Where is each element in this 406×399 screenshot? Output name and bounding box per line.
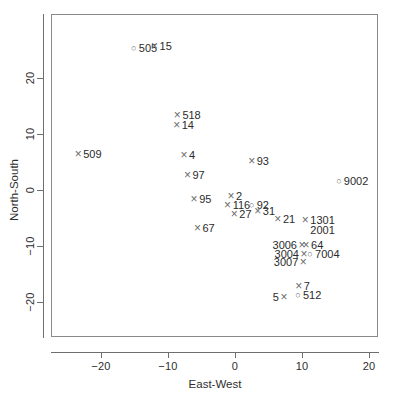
point-label-509: 509 [83, 149, 101, 160]
y-tick-label-10: 10 [24, 127, 36, 140]
point-label-31: 31 [263, 206, 275, 217]
x-tick-label-0: 0 [232, 360, 238, 372]
point-label-7004: 7004 [315, 249, 339, 260]
point-label-97: 97 [192, 170, 204, 181]
x-tick--20 [101, 352, 102, 358]
point-label-14: 14 [182, 119, 194, 130]
x-tick-label-10: 10 [296, 360, 309, 372]
y-tick-label-0: 0 [24, 187, 36, 193]
plot-frame [51, 14, 378, 337]
y-tick-20 [37, 78, 43, 79]
point-label-4: 4 [189, 150, 195, 161]
y-tick-0 [37, 190, 43, 191]
x-tick--10 [168, 352, 169, 358]
point-label-2001: 2001 [310, 225, 334, 236]
point-label-93: 93 [257, 155, 269, 166]
point-label-3007: 3007 [274, 256, 298, 267]
y-tick-label--20: −20 [24, 293, 36, 312]
point-label-27: 27 [239, 208, 251, 219]
point-label-95: 95 [199, 193, 211, 204]
y-tick--10 [37, 246, 43, 247]
point-label-67: 67 [202, 223, 214, 234]
point-label-512: 512 [303, 289, 321, 300]
point-label-21: 21 [283, 214, 295, 225]
x-tick-label--10: −10 [158, 360, 177, 372]
point-label-9002: 9002 [344, 176, 368, 187]
point-label-15: 15 [160, 41, 172, 52]
y-axis-line [43, 14, 44, 338]
y-tick--20 [37, 302, 43, 303]
y-axis-title: North-South [8, 159, 20, 221]
x-tick-20 [369, 352, 370, 358]
y-tick-label--10: −10 [24, 237, 36, 256]
y-tick-10 [37, 134, 43, 135]
point-label-505: 505 [139, 43, 157, 54]
x-tick-0 [235, 352, 236, 358]
y-tick-label-20: 20 [24, 71, 36, 84]
point-label-5: 5 [273, 291, 279, 302]
x-tick-label-20: 20 [363, 360, 376, 372]
x-tick-label--20: −20 [91, 360, 110, 372]
scatter-plot: −20−1001020 −20−1001020 East-West North-… [0, 0, 406, 399]
x-axis-title: East-West [189, 378, 242, 390]
x-tick-10 [302, 352, 303, 358]
